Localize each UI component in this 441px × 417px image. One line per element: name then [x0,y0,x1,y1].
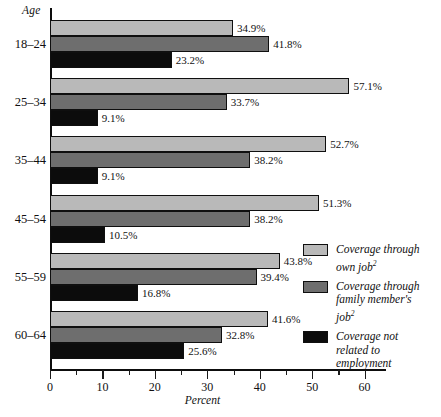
y-category-label: 25–34 [0,95,46,109]
y-category-label: 18–24 [0,37,46,51]
bar-notrel [50,285,138,301]
y-category-label: 45–54 [0,212,46,226]
legend-label-line2: own job [336,260,373,272]
bar-notrel [50,52,172,68]
bar-value-label: 39.4% [261,269,289,285]
legend-label-line2: related to [336,344,380,356]
bar-value-label: 32.8% [226,327,254,343]
bar-value-label: 52.7% [330,136,358,152]
bar-own [50,311,268,327]
x-tick-major [50,370,51,379]
legend-label-line1: Coverage not [336,330,398,342]
legend-swatch-notrel [303,331,328,343]
bar-chart: Age 0102030405060 34.9%41.8%23.2%18–2457… [0,0,441,417]
x-tick-label: 40 [240,380,280,395]
bar-family [50,327,222,343]
legend-footnote-marker: 2 [351,309,355,318]
bar-value-label: 25.6% [188,343,216,359]
legend-label-line1: Coverage through [336,280,420,292]
bar-value-label: 41.6% [272,311,300,327]
bar-family [50,269,257,285]
bar-group: 34.9%41.8%23.2% [50,20,390,68]
bar-value-label: 38.2% [254,152,282,168]
legend-label-line2: family member's [336,293,412,305]
bar-value-label: 10.5% [109,227,137,243]
bar-value-label: 33.7% [231,94,259,110]
bar-value-label: 57.1% [353,78,381,94]
bar-value-label: 9.1% [102,168,125,184]
bar-value-label: 9.1% [102,110,125,126]
bar-group: 57.1%33.7%9.1% [50,78,390,126]
x-tick-label: 60 [345,380,385,395]
bar-value-label: 51.3% [323,195,351,211]
x-tick-label: 50 [292,380,332,395]
legend-label-line3: job [336,311,351,323]
legend-item: Coverage throughown job2 [303,243,439,274]
bar-own [50,253,280,269]
legend-swatch-family [303,281,328,293]
bar-notrel [50,168,98,184]
bar-notrel [50,227,105,243]
x-tick-label: 30 [187,380,227,395]
legend-swatch-own [303,244,328,256]
bar-family [50,94,227,110]
x-axis-title-text: Percent [185,394,220,406]
bar-notrel [50,343,184,359]
legend-label: Coverage throughown job2 [336,243,439,274]
legend-label: Coverage throughfamily member'sjob2 [336,280,439,324]
x-tick-minor [129,370,130,375]
y-category-label: 35–44 [0,153,46,167]
x-tick-label: 20 [135,380,175,395]
y-category-label: 55–59 [0,270,46,284]
x-tick-minor [234,370,235,375]
x-tick-label: 0 [30,380,70,395]
legend-label: Coverage notrelated toemployment [336,330,439,371]
bar-own [50,78,349,94]
bar-value-label: 41.8% [273,36,301,52]
bar-family [50,152,250,168]
bar-value-label: 38.2% [254,211,282,227]
y-axis-title: Age [22,4,40,16]
bar-family [50,36,269,52]
legend-label-line1: Coverage through [336,243,420,255]
x-tick-minor [181,370,182,375]
bar-own [50,20,233,36]
bar-value-label: 23.2% [176,52,204,68]
x-axis-title: Percent [0,394,441,406]
bar-family [50,211,250,227]
bar-group: 52.7%38.2%9.1% [50,136,390,184]
bar-value-label: 34.9% [237,20,265,36]
x-tick-major [155,370,156,379]
x-tick-minor [286,370,287,375]
bar-value-label: 16.8% [142,285,170,301]
x-tick-major [102,370,103,379]
bar-own [50,136,326,152]
legend-footnote-marker: 2 [373,259,377,268]
x-tick-major [260,370,261,379]
legend-item: Coverage notrelated toemployment [303,330,439,371]
bar-group: 51.3%38.2%10.5% [50,195,390,243]
x-tick-major [207,370,208,379]
x-tick-minor [76,370,77,375]
legend-item: Coverage throughfamily member'sjob2 [303,280,439,324]
x-tick-label: 10 [82,380,122,395]
legend: Coverage throughown job2Coverage through… [303,243,439,377]
bar-own [50,195,319,211]
bar-notrel [50,110,98,126]
y-category-label: 60–64 [0,328,46,342]
legend-label-line3: employment [336,357,392,369]
